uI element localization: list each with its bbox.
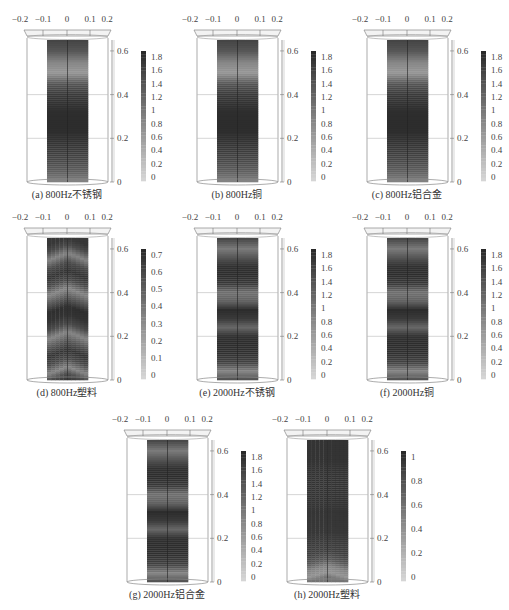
- heat-cell: [340, 570, 344, 572]
- heat-cell: [315, 448, 319, 450]
- heat-cell: [323, 477, 327, 479]
- heat-cell: [323, 537, 327, 539]
- heat-cell: [47, 352, 51, 354]
- heat-cell: [332, 487, 336, 489]
- heat-cell: [344, 458, 348, 460]
- heat-cell: [80, 238, 84, 240]
- heat-cell: [63, 295, 67, 297]
- heat-cell: [328, 481, 332, 483]
- heat-cell: [68, 240, 72, 242]
- colorbar-segment: [401, 536, 406, 540]
- heat-cell: [315, 468, 319, 470]
- heat-cell: [63, 362, 67, 364]
- heat-cell: [311, 550, 315, 552]
- colorbar-segment: [141, 272, 146, 276]
- colorbar-segment: [401, 487, 406, 491]
- colorbar-segment: [141, 252, 146, 256]
- heat-cell: [84, 366, 88, 368]
- heat-cell: [84, 323, 88, 325]
- heat-cell: [47, 285, 51, 287]
- colorbar-segment: [311, 262, 316, 266]
- heat-cell: [47, 293, 51, 295]
- heat-cell: [51, 313, 55, 315]
- colorbar-segment: [481, 71, 486, 75]
- heat-cell: [315, 531, 319, 533]
- heat-cell: [84, 309, 88, 311]
- heat-cell: [76, 378, 80, 380]
- colorbar-segment: [141, 334, 146, 338]
- heat-cell: [336, 505, 340, 507]
- heat-cell: [68, 283, 72, 285]
- colorbar-tick-label: 0.4: [411, 524, 423, 534]
- heat-cell: [59, 301, 63, 303]
- colorbar-segment: [311, 373, 316, 377]
- heat-cell: [76, 366, 80, 368]
- heat-cell: [72, 277, 76, 279]
- heat-cell: [323, 479, 327, 481]
- colorbar-tick-label: 0.6: [411, 500, 423, 510]
- heat-cell: [323, 580, 327, 582]
- heat-cell: [84, 348, 88, 350]
- heat-cell: [319, 477, 323, 479]
- colorbar-segment: [481, 93, 486, 97]
- heat-cell: [315, 547, 319, 549]
- colorbar-segment: [141, 158, 146, 162]
- heat-cell: [68, 325, 72, 327]
- heat-cell: [307, 550, 311, 552]
- heat-cell: [47, 315, 51, 317]
- heat-cell: [72, 378, 76, 380]
- heat-cell: [55, 279, 59, 281]
- heat-cell: [311, 560, 315, 562]
- colorbar-segment: [141, 71, 146, 75]
- heat-cell: [55, 352, 59, 354]
- heat-cell: [340, 539, 344, 541]
- heat-cell: [84, 242, 88, 244]
- colorbar-segment: [311, 265, 316, 269]
- x-tick-label: 0: [65, 212, 70, 222]
- heat-cell: [63, 327, 67, 329]
- heat-cell: [51, 372, 55, 374]
- heat-cell: [84, 289, 88, 291]
- heat-cell: [47, 274, 51, 276]
- heat-cell: [319, 474, 323, 476]
- heat-cell: [51, 362, 55, 364]
- heat-cell: [344, 576, 348, 578]
- colorbar-segment: [481, 295, 486, 299]
- heat-cell: [59, 279, 63, 281]
- heat-cell: [68, 331, 72, 333]
- colorbar-segment: [311, 337, 316, 341]
- heat-cell: [63, 293, 67, 295]
- heat-cell: [59, 281, 63, 283]
- colorbar-tick-label: 0.4: [491, 145, 503, 155]
- heat-cell: [80, 252, 84, 254]
- heat-cell: [51, 299, 55, 301]
- heat-cell: [47, 313, 51, 315]
- heat-cell: [319, 568, 323, 570]
- heat-cell: [55, 283, 59, 285]
- heat-cell: [319, 499, 323, 501]
- colorbar-segment: [141, 321, 146, 325]
- colorbar-segment: [311, 347, 316, 351]
- heat-cell: [307, 576, 311, 578]
- x-tick-label: 0.2: [101, 14, 112, 24]
- heat-cell: [72, 281, 76, 283]
- colorbar-segment: [141, 58, 146, 62]
- heat-cell: [344, 450, 348, 452]
- heat-cell: [47, 311, 51, 313]
- colorbar-segment: [311, 369, 316, 373]
- colorbar-segment: [481, 77, 486, 81]
- x-tick-label: 0.2: [361, 414, 372, 424]
- heat-cell: [307, 560, 311, 562]
- heat-cell: [336, 503, 340, 505]
- heat-cell: [63, 337, 67, 339]
- colorbar-segment: [401, 519, 406, 523]
- heat-cell: [332, 511, 336, 513]
- heat-cell: [319, 545, 323, 547]
- heat-cell: [332, 580, 336, 582]
- heat-cell: [80, 317, 84, 319]
- colorbar-segment: [481, 100, 486, 104]
- heat-cell: [59, 240, 63, 242]
- heat-cell: [319, 450, 323, 452]
- heat-cell: [80, 321, 84, 323]
- heat-cell: [319, 523, 323, 525]
